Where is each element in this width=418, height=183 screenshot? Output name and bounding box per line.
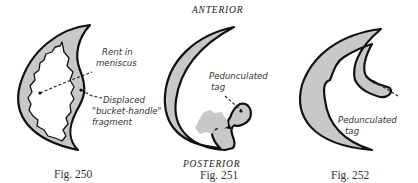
anterior-heading: ANTERIOR <box>191 5 243 15</box>
tag-label-251-2: tag <box>211 82 226 92</box>
tag-pointer-dot-251 <box>239 109 242 112</box>
displaced-label-2: "bucket-handle" <box>92 106 162 116</box>
figure-250: Rent in meniscus Displaced "bucket-handl… <box>18 25 161 181</box>
rent-label: Rent in <box>102 47 133 57</box>
posterior-heading: POSTERIOR <box>182 159 240 169</box>
caption-fig-252: Fig. 252 <box>331 169 370 182</box>
tag-label-251: Pedunculated <box>209 71 268 81</box>
displaced-label-3: fragment <box>92 117 132 127</box>
tag-label-252-2: tag <box>345 126 360 136</box>
displaced-label: Displaced <box>103 95 146 105</box>
caption-fig-251: Fig. 251 <box>200 169 239 182</box>
caption-fig-250: Fig. 250 <box>54 168 93 181</box>
rent-pointer-dot <box>38 91 41 94</box>
fragment-pointer-dot <box>79 88 82 91</box>
tag-pointer-dot-252 <box>372 80 375 83</box>
meniscus-tear-diagram: ANTERIOR POSTERIOR Rent in meniscus Disp… <box>0 0 418 183</box>
tag-label-252: Pedunculated <box>338 115 397 125</box>
figure-252: Pedunculated tag Fig. 252 <box>300 29 398 182</box>
rent-label-2: meniscus <box>96 58 137 68</box>
